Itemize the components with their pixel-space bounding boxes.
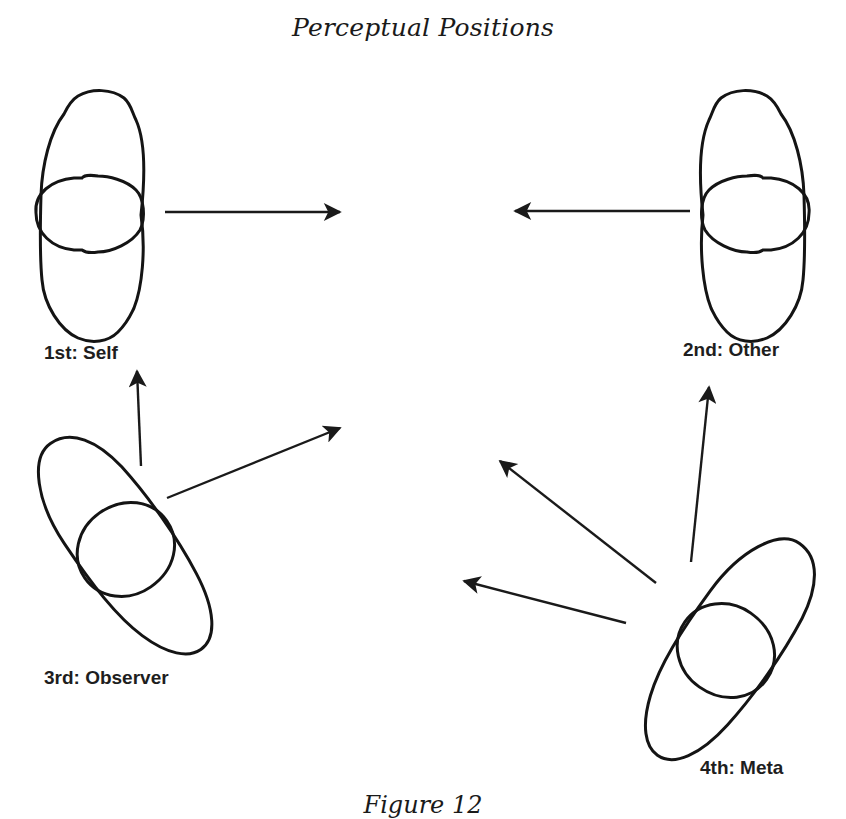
label-first-position: 1st: Self bbox=[44, 343, 118, 362]
person-icon-second-position bbox=[700, 91, 809, 342]
arrow-meta-to-center-upper bbox=[500, 461, 656, 583]
label-fourth-position: 4th: Meta bbox=[700, 758, 783, 777]
label-third-position: 3rd: Observer bbox=[44, 668, 169, 687]
arrow-meta-to-center-lower bbox=[464, 581, 626, 623]
person-icon-fourth-position bbox=[613, 515, 841, 781]
arrow-observer-to-center bbox=[167, 428, 340, 498]
person-icon-third-position bbox=[10, 414, 238, 680]
person-icon-first-position bbox=[36, 91, 144, 342]
arrow-meta-to-other bbox=[691, 387, 709, 562]
arrow-observer-to-self bbox=[137, 371, 141, 466]
figure-caption: Figure 12 bbox=[0, 793, 846, 817]
label-second-position: 2nd: Other bbox=[683, 340, 779, 359]
